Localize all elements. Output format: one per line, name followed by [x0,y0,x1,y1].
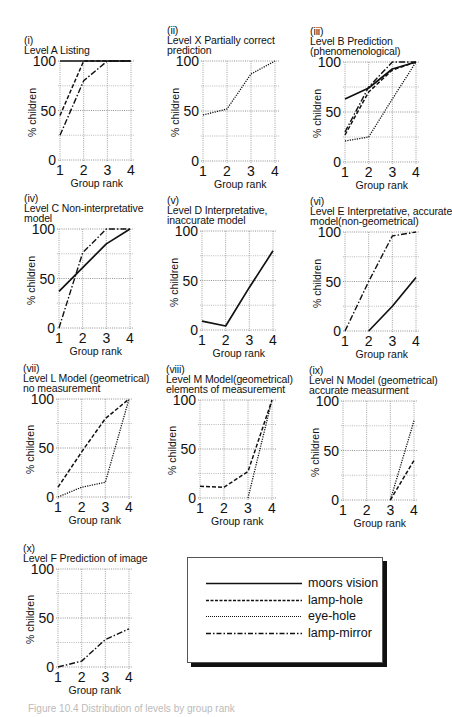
y-axis-label: % children [25,255,37,304]
x-tick-label: 3 [385,334,399,348]
x-tick-label: 4 [265,501,279,515]
series-line-moors-vision [202,251,273,326]
series-line-moors-vision [59,229,130,291]
legend-label: eye-hole [308,609,356,623]
y-tick-label: 0 [311,155,341,169]
x-tick-label: 4 [124,163,138,177]
plot-area [56,569,135,669]
x-tick-label: 2 [217,501,231,515]
dash-dot-line-swatch-icon [206,632,302,635]
y-tick-label: 100 [24,562,54,576]
series-line-lamp-mirror [60,61,131,135]
x-axis-label: Group rank [214,178,267,190]
panel-title: (ii) Level X Partially correct predictio… [167,25,275,55]
x-axis-label: Group rank [213,347,266,359]
series-line-eye-hole [203,61,275,115]
y-tick-label: 0 [24,490,54,504]
y-tick-label: 0 [25,321,55,335]
dotted-line-swatch-icon [206,615,302,618]
y-tick-label: 100 [25,222,55,236]
x-tick-label: 4 [409,165,423,179]
series-line-lamp-hole [345,62,416,135]
legend-label: lamp-hole [308,593,363,607]
panel-title: (v) Level D Interpretative, inaccurate m… [167,195,267,225]
legend-label: moors vision [308,576,378,590]
x-tick-label: 1 [51,500,65,514]
legend-item-lamp-hole: lamp-hole [188,593,382,607]
y-tick-label: 100 [311,55,341,69]
y-tick-label: 0 [311,324,341,338]
series-line-eye-hole [345,62,416,141]
x-tick-label: 4 [123,331,137,345]
x-axis-label: Group rank [356,348,409,360]
legend: moors vision lamp-hole eye-hole lamp-mir… [187,557,383,663]
series-line-eye-hole [390,421,414,500]
x-tick-label: 1 [196,164,210,178]
x-tick-label: 2 [77,163,91,177]
x-tick-label: 1 [193,501,207,515]
y-axis-label: % children [169,88,181,137]
x-axis-label: Group rank [69,514,122,526]
x-axis-label: Group rank [69,684,122,696]
plot-area [343,62,422,164]
x-tick-label: 2 [219,333,233,347]
x-tick-label: 3 [100,163,114,177]
x-tick-label: 4 [122,670,136,684]
solid-line-swatch-icon [206,582,302,585]
series-line-moors-vision [345,62,416,99]
y-axis-label: % children [24,425,36,474]
y-tick-label: 0 [26,153,56,167]
y-axis-label: % children [311,258,323,307]
x-tick-label: 3 [242,333,256,347]
x-tick-label: 3 [99,331,113,345]
x-tick-label: 3 [98,500,112,514]
legend-item-eye-hole: eye-hole [188,609,382,623]
series-line-lamp-mirror [58,629,129,667]
x-tick-label: 3 [241,501,255,515]
panel-title: (iv) Level C Non-interpretative model [24,193,143,223]
x-tick-label: 4 [268,164,282,178]
plot-area [201,61,281,163]
y-tick-label: 100 [311,225,341,239]
dashed-line-swatch-icon [206,599,302,602]
x-axis-label: Group rank [70,345,123,357]
y-tick-label: 0 [24,660,54,674]
plot-area [56,399,135,499]
x-tick-label: 2 [75,670,89,684]
y-tick-label: 0 [169,154,199,168]
panel-title: (x) Level F Prediction of image [23,543,148,563]
x-axis-label: Group rank [71,177,124,189]
y-axis-label: % children [24,595,36,644]
panel-title: (ix) Level N Model (geometrical) accurat… [309,365,438,395]
x-tick-label: 2 [75,500,89,514]
x-tick-label: 1 [51,670,65,684]
x-tick-label: 2 [76,331,90,345]
panel-title: (i) Level A Listing [24,35,90,55]
x-tick-label: 3 [383,503,397,517]
x-axis-label: Group rank [211,515,264,527]
plot-area [343,232,422,333]
x-tick-label: 2 [360,503,374,517]
x-tick-label: 2 [220,164,234,178]
y-axis-label: % children [309,427,321,476]
y-axis-label: % children [26,87,38,136]
x-tick-label: 1 [338,165,352,179]
x-tick-label: 1 [338,334,352,348]
y-axis-label: % children [168,257,180,306]
y-tick-label: 100 [24,392,54,406]
series-line-lamp-hole [60,61,131,115]
panel-title: (vi) Level E Interpretative, accurate mo… [310,196,452,226]
series-line-lamp-hole [58,399,129,487]
x-tick-label: 1 [52,331,66,345]
y-axis-label: % children [166,426,178,475]
x-tick-label: 4 [122,500,136,514]
x-tick-label: 2 [362,165,376,179]
y-tick-label: 100 [169,54,199,68]
legend-item-lamp-mirror: lamp-mirror [188,626,382,640]
x-tick-label: 1 [195,333,209,347]
x-tick-label: 4 [409,334,423,348]
x-tick-label: 1 [53,163,67,177]
x-axis-label: Group rank [354,517,407,529]
x-tick-label: 2 [362,334,376,348]
plot-area [341,401,420,502]
